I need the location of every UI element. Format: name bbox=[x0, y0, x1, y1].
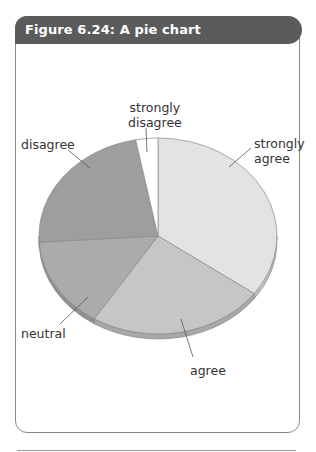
leader-line-strongly-agree bbox=[229, 148, 251, 167]
label-strongly-agree-line1: strongly bbox=[254, 136, 305, 151]
label-strongly-disagree-line1: strongly bbox=[128, 100, 182, 115]
label-neutral: neutral bbox=[21, 326, 66, 341]
label-agree: agree bbox=[190, 363, 226, 378]
bottom-rule bbox=[17, 450, 296, 451]
label-strongly-disagree-line2: disagree bbox=[128, 115, 182, 130]
label-strongly-agree-line2: agree bbox=[254, 151, 305, 166]
label-strongly-agree: strongly agree bbox=[254, 136, 305, 166]
pie-chart bbox=[0, 0, 316, 452]
label-strongly-disagree: strongly disagree bbox=[128, 100, 182, 130]
label-disagree: disagree bbox=[21, 137, 75, 152]
